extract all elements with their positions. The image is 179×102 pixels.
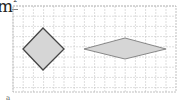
footer-mark: a bbox=[6, 95, 10, 102]
square-rhombus-shape bbox=[23, 28, 64, 70]
grid-diagram bbox=[0, 0, 179, 102]
flat-rhombus-shape bbox=[84, 38, 166, 59]
